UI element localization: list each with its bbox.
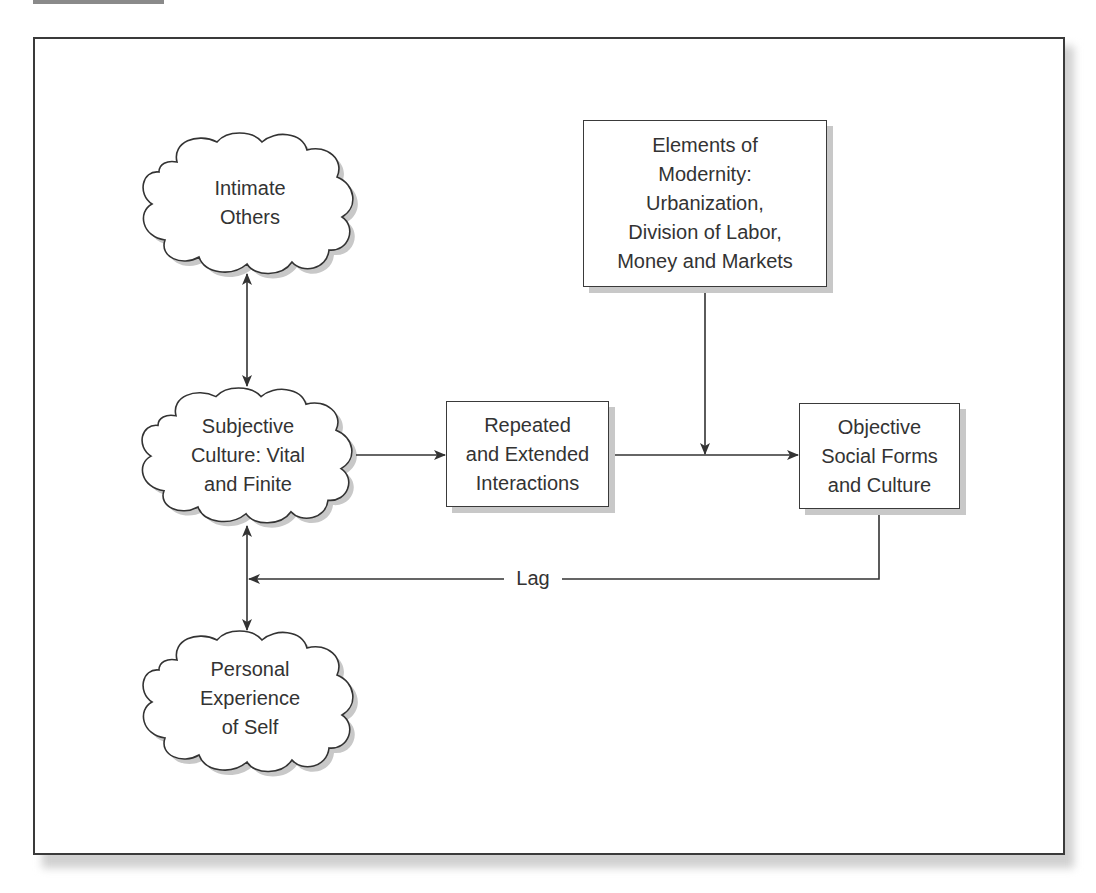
node-line: Repeated [484,411,571,440]
node-line: Interactions [476,469,579,498]
node-line: of Self [222,713,279,742]
edge-lag [249,509,879,579]
node-line: Experience [200,684,300,713]
node-line: Culture: Vital [191,441,305,470]
node-repeated-interactions: Repeated and Extended Interactions [446,401,609,507]
node-personal-experience: Personal Experience of Self [150,643,350,753]
edge-label-lag: Lag [504,565,562,591]
node-line: and Finite [204,470,292,499]
node-line: Money and Markets [617,247,793,276]
node-line: Urbanization, [646,189,764,218]
node-line: Others [220,203,280,232]
node-intimate-others: Intimate Others [150,150,350,255]
node-elements-of-modernity: Elements of Modernity: Urbanization, Div… [583,120,827,287]
node-line: Social Forms [821,442,938,471]
node-line: and Extended [466,440,589,469]
node-line: Objective [838,413,921,442]
node-subjective-culture: Subjective Culture: Vital and Finite [148,400,348,510]
node-line: Subjective [202,412,294,441]
node-line: Personal [211,655,290,684]
node-line: Elements of [652,131,758,160]
node-line: Intimate [214,174,285,203]
node-line: Division of Labor, [628,218,781,247]
node-objective-forms: Objective Social Forms and Culture [799,403,960,509]
node-line: and Culture [828,471,931,500]
node-line: Modernity: [658,160,751,189]
